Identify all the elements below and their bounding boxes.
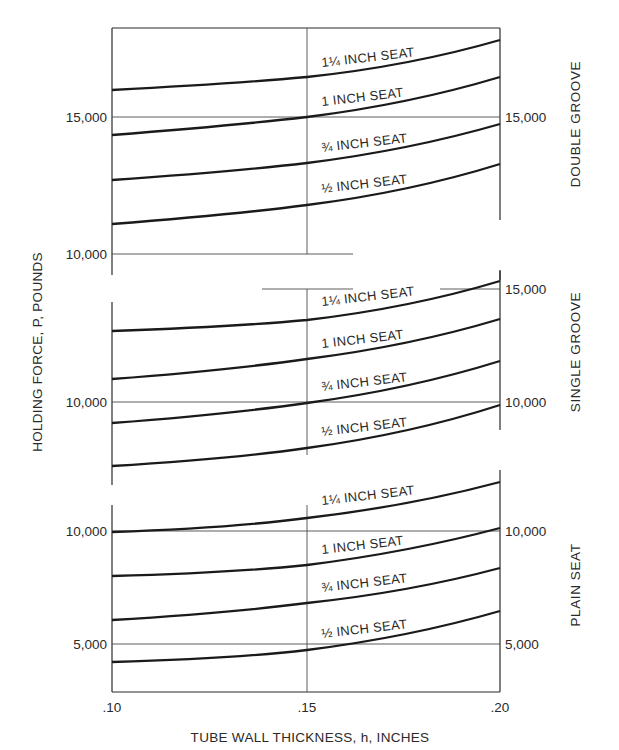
panel-plain-seat: 1¼ INCH SEAT 1 INCH SEAT ¾ INCH SEAT ½ I… bbox=[66, 470, 583, 692]
curve-label: 1¼ INCH SEAT bbox=[321, 44, 416, 70]
curve-label: 1 INCH SEAT bbox=[321, 327, 405, 351]
curve-label: ½ INCH SEAT bbox=[321, 616, 408, 641]
y-tick-label-left: 10,000 bbox=[66, 247, 107, 262]
panel-title-double-groove: DOUBLE GROOVE bbox=[568, 61, 583, 187]
curve-3-4-inch-seat bbox=[112, 124, 500, 180]
curve-1-2-inch-seat bbox=[112, 164, 500, 224]
y-tick-label-right: 10,000 bbox=[505, 524, 546, 539]
x-tick-label: .15 bbox=[298, 700, 317, 715]
x-tick-label: .10 bbox=[103, 700, 122, 715]
y-tick-label-left: 15,000 bbox=[66, 110, 107, 125]
curve-3-4-inch-seat bbox=[112, 568, 500, 620]
curve-label: ¾ INCH SEAT bbox=[321, 130, 408, 155]
curve-3-4-inch-seat bbox=[112, 361, 500, 423]
y-tick-label-right: 15,000 bbox=[505, 282, 546, 297]
curve-label: ½ INCH SEAT bbox=[321, 171, 408, 196]
panel-title-plain-seat: PLAIN SEAT bbox=[568, 543, 583, 626]
curve-1-inch-seat bbox=[112, 528, 500, 576]
curve-1-1-4-inch-seat bbox=[112, 281, 500, 331]
panel-title-single-groove: SINGLE GROOVE bbox=[568, 292, 583, 412]
curve-1-1-4-inch-seat bbox=[112, 482, 500, 532]
y-tick-label-right: 10,000 bbox=[505, 395, 546, 410]
curve-1-2-inch-seat bbox=[112, 405, 500, 466]
curve-1-2-inch-seat bbox=[112, 611, 500, 662]
x-tick-label: .20 bbox=[491, 700, 510, 715]
panel-double-groove: 1¼ INCH SEAT 1 INCH SEAT ¾ INCH SEAT ½ I… bbox=[66, 28, 583, 280]
panel-single-groove: 1¼ INCH SEAT 1 INCH SEAT ¾ INCH SEAT ½ I… bbox=[66, 271, 583, 485]
y-tick-label-left: 10,000 bbox=[66, 395, 107, 410]
y-tick-label-left: 5,000 bbox=[73, 637, 107, 652]
y-tick-label-left: 10,000 bbox=[66, 524, 107, 539]
x-axis-title: TUBE WALL THICKNESS, h, INCHES bbox=[191, 730, 430, 745]
holding-force-chart: HOLDING FORCE, P, POUNDS 1¼ INCH SEAT 1 … bbox=[0, 0, 619, 750]
curve-label: ¾ INCH SEAT bbox=[321, 369, 408, 394]
curve-label: ½ INCH SEAT bbox=[321, 414, 408, 439]
curve-label: 1 INCH SEAT bbox=[321, 533, 405, 557]
y-tick-label-right: 5,000 bbox=[505, 637, 539, 652]
curve-1-1-4-inch-seat bbox=[112, 40, 500, 90]
curve-label: 1 INCH SEAT bbox=[321, 85, 405, 109]
y-axis-title: HOLDING FORCE, P, POUNDS bbox=[30, 252, 45, 452]
y-tick-label-right: 15,000 bbox=[505, 110, 546, 125]
